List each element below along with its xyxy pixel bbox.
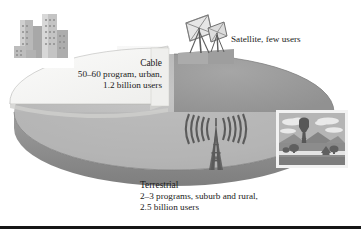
- rural-landscape-tower-photo: [276, 110, 348, 168]
- label-cable-line1: 50–60 program, urban,: [14, 69, 162, 80]
- label-terrestrial: Terrestrial 2–3 programs, suburb and rur…: [140, 180, 258, 213]
- label-cable: Cable 50–60 program, urban, 1.2 billion …: [14, 58, 162, 91]
- label-satellite: Satellite, few users: [231, 34, 301, 45]
- satellite-dish-antennas-photo: [178, 9, 234, 64]
- label-terrestrial-line2: 2.5 billion users: [140, 202, 258, 213]
- horizontal-rule: [0, 226, 361, 229]
- label-cable-heading: Cable: [14, 58, 162, 69]
- label-terrestrial-line1: 2–3 programs, suburb and rural,: [140, 191, 258, 202]
- label-satellite-heading: Satellite, few users: [231, 34, 301, 45]
- figure-broadcast-distribution: Cable 50–60 program, urban, 1.2 billion …: [0, 0, 361, 237]
- label-terrestrial-heading: Terrestrial: [140, 180, 258, 191]
- label-cable-line2: 1.2 billion users: [14, 80, 162, 91]
